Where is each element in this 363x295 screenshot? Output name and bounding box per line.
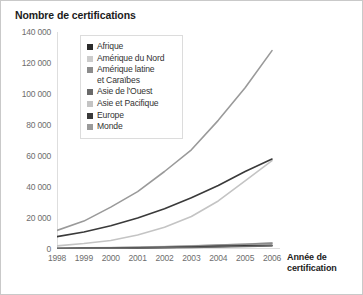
chart-title: Nombre de certifications [15,9,136,21]
x-tick-label: 2002 [155,253,173,263]
legend-item-label: Asie et Pacifique [97,98,158,108]
legend-swatch-icon [87,124,93,130]
y-tick-label: 120 000 [22,58,51,68]
legend-swatch-icon [87,56,93,62]
legend-swatch-icon [87,113,93,119]
chart-figure: Nombre de certifications 020 00040 00060… [0,0,363,295]
x-tick-label: 2006 [263,253,281,263]
x-tick-label: 2005 [236,253,254,263]
x-axis-title: Année decertification [287,252,362,274]
legend-swatch-icon [87,44,93,50]
y-tick-label: 100 000 [22,89,51,99]
x-tick-label: 1999 [75,253,93,263]
y-tick-label: 140 000 [22,27,51,37]
legend-item-label: Amérique latine et Caraïbes [97,64,154,84]
x-tick-label: 2000 [102,253,120,263]
x-tick-label: 2003 [182,253,200,263]
legend-item[interactable]: Asie et Pacifique [87,98,177,108]
legend-item[interactable]: Afrique [87,41,177,51]
legend-item-label: Afrique [97,41,123,51]
x-tick-label: 2004 [209,253,227,263]
y-tick-label: 60 000 [26,151,51,161]
y-axis-tick-labels: 020 00040 00060 00080 000100 000120 0001… [1,25,51,257]
legend-item[interactable]: Amérique latine et Caraïbes [87,64,177,84]
legend-item-label: Asie de l'Ouest [97,86,152,96]
legend-item-label: Europe [97,110,124,120]
legend-item[interactable]: Europe [87,110,177,120]
x-tick-label: 1998 [48,253,66,263]
legend-item[interactable]: Amérique du Nord [87,53,177,63]
legend-item-label: Amérique du Nord [97,53,164,63]
legend-swatch-icon [87,67,93,73]
legend-swatch-icon [87,101,93,107]
x-axis-tick-labels: 199819992000200120022003200420052006 [57,253,297,269]
legend-swatch-icon [87,89,93,95]
x-tick-label: 2001 [129,253,147,263]
legend-item[interactable]: Asie de l'Ouest [87,86,177,96]
y-tick-label: 40 000 [26,182,51,192]
chart-legend: AfriqueAmérique du NordAmérique latine e… [80,35,183,139]
legend-item[interactable]: Monde [87,121,177,131]
y-tick-label: 80 000 [26,120,51,130]
legend-item-label: Monde [97,121,123,131]
y-tick-label: 20 000 [26,213,51,223]
